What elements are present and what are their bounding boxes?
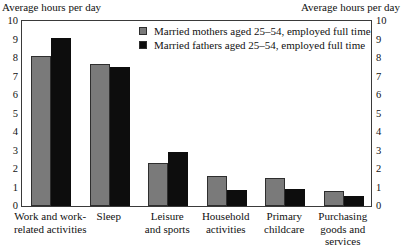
legend-label-fathers: Married fathers aged 25–54, employed ful…	[154, 39, 365, 52]
legend: Married mothers aged 25–54, employed ful…	[139, 24, 371, 52]
bar-mothers[interactable]	[265, 178, 285, 206]
x-axis-label: Purchasinggoods andservices	[304, 210, 383, 248]
y-tick-label-right-6: 6	[376, 90, 390, 101]
bar-mothers[interactable]	[90, 64, 110, 206]
bar-fathers[interactable]	[344, 196, 364, 206]
bar-fathers[interactable]	[168, 152, 188, 206]
y-tick-label-left-1: 1	[4, 182, 18, 193]
y-tick-label-left-7: 7	[4, 71, 18, 82]
legend-item-mothers[interactable]: Married mothers aged 25–54, employed ful…	[139, 24, 371, 38]
bar-mothers[interactable]	[207, 176, 227, 206]
legend-item-fathers[interactable]: Married fathers aged 25–54, employed ful…	[139, 38, 371, 52]
y-tick-label-right-7: 7	[376, 71, 390, 82]
y-tick-label-right-9: 9	[376, 34, 390, 45]
legend-swatch-fathers-icon	[139, 41, 147, 49]
y-tick-label-left-8: 8	[4, 53, 18, 64]
bar-fathers[interactable]	[110, 67, 130, 206]
y-tick-label-left-3: 3	[4, 145, 18, 156]
right-axis-title: Average hours per day	[301, 1, 400, 14]
bar-mothers[interactable]	[148, 163, 168, 206]
bar-fathers[interactable]	[51, 38, 71, 206]
bar-mothers[interactable]	[31, 56, 51, 206]
bar-group	[81, 21, 140, 206]
bar-group	[22, 21, 81, 206]
left-axis-title: Average hours per day	[2, 1, 101, 14]
y-tick-label-right-10: 10	[376, 16, 390, 27]
legend-label-mothers: Married mothers aged 25–54, employed ful…	[154, 25, 371, 38]
y-tick-label-right-5: 5	[376, 108, 390, 119]
bar-fathers[interactable]	[227, 190, 247, 206]
y-tick-label-right-2: 2	[376, 164, 390, 175]
y-tick-label-right-3: 3	[376, 145, 390, 156]
y-tick-label-left-2: 2	[4, 164, 18, 175]
y-tick-label-left-6: 6	[4, 90, 18, 101]
y-tick-label-right-4: 4	[376, 127, 390, 138]
y-tick-label-left-10: 10	[4, 16, 18, 27]
legend-swatch-mothers-icon	[139, 27, 147, 35]
bar-mothers[interactable]	[324, 191, 344, 206]
y-tick-label-left-9: 9	[4, 34, 18, 45]
y-tick-label-right-8: 8	[376, 53, 390, 64]
y-tick-label-left-5: 5	[4, 108, 18, 119]
y-tick-label-left-4: 4	[4, 127, 18, 138]
bar-fathers[interactable]	[285, 189, 305, 206]
y-tick-label-right-1: 1	[376, 182, 390, 193]
